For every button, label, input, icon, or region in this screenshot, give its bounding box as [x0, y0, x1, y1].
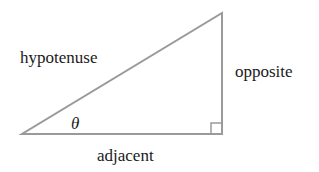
hypotenuse-label: hypotenuse: [20, 48, 97, 67]
triangle-shape: [22, 13, 222, 134]
opposite-label: opposite: [235, 62, 293, 81]
angle-theta-label: θ: [71, 114, 79, 133]
right-angle-marker: [211, 123, 222, 134]
adjacent-label: adjacent: [97, 146, 154, 165]
right-triangle-diagram: hypotenuse opposite θ adjacent: [0, 0, 319, 172]
